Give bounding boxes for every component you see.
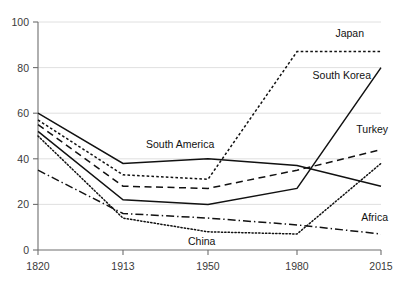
series-label-japan: Japan — [335, 27, 364, 39]
line-chart: 100 80 60 40 20 0 1820 1913 1950 1980 20… — [0, 0, 407, 282]
ytick-label-80: 80 — [17, 62, 29, 74]
ytick-label-40: 40 — [17, 153, 29, 165]
ytick-label-60: 60 — [17, 107, 29, 119]
series-label-africa: Africa — [361, 211, 388, 223]
xtick-label-1820: 1820 — [26, 260, 50, 272]
xtick-label-1913: 1913 — [111, 260, 135, 272]
series-label-south-korea: South Korea — [313, 69, 372, 81]
ytick-label-20: 20 — [17, 198, 29, 210]
series-label-china: China — [188, 235, 216, 247]
xtick-label-2015: 2015 — [369, 260, 393, 272]
ytick-label-0: 0 — [23, 244, 29, 256]
xtick-label-1980: 1980 — [285, 260, 309, 272]
chart-container: 100 80 60 40 20 0 1820 1913 1950 1980 20… — [0, 0, 407, 282]
series-label-south-america: South America — [146, 138, 214, 150]
series-label-turkey: Turkey — [356, 123, 388, 135]
xtick-label-1950: 1950 — [196, 260, 220, 272]
ytick-label-100: 100 — [11, 16, 29, 28]
